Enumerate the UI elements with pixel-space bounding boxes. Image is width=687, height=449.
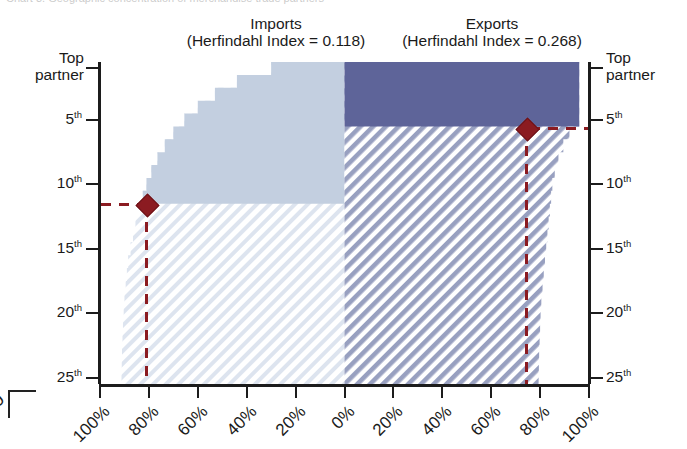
y-label-right-20: 20th xyxy=(606,303,678,320)
y-tick-right-25 xyxy=(590,377,603,379)
y-tick-left-10 xyxy=(86,183,99,185)
y-axis-left-line xyxy=(98,62,101,384)
y-tick-left-25 xyxy=(86,377,99,379)
y-tick-right-15 xyxy=(590,248,603,250)
x-tick-right-40% xyxy=(441,384,443,398)
y-label-right-10: 10th xyxy=(606,174,678,191)
y-tick-left-20 xyxy=(86,312,99,314)
y-label-right-1: Toppartner xyxy=(606,50,680,83)
imports-marker-leader-vertical xyxy=(145,204,148,384)
x-tick-left-80% xyxy=(148,384,150,398)
y-label-left-25: 25th xyxy=(10,368,82,385)
chart-canvas: Chart 3. Geographic concentration of mer… xyxy=(0,0,687,449)
exports-marker-leader-vertical xyxy=(525,128,528,384)
y-label-left-15: 15th xyxy=(10,239,82,256)
y-tick-left-1 xyxy=(86,67,99,69)
x-tick-left-40% xyxy=(246,384,248,398)
x-tick-right-20% xyxy=(392,384,394,398)
y-tick-right-1 xyxy=(590,67,603,69)
x-tick-left-20% xyxy=(295,384,297,398)
y-label-left-1: Toppartner xyxy=(10,50,84,83)
plot-area xyxy=(0,0,687,449)
y-axis-right-line xyxy=(588,62,591,384)
x-tick-left-100% xyxy=(99,384,101,398)
x-tick-right-80% xyxy=(539,384,541,398)
y-label-right-15: 15th xyxy=(606,239,678,256)
y-label-left-5: 5th xyxy=(10,110,82,127)
x-tick-right-60% xyxy=(490,384,492,398)
y-label-right-5: 5th xyxy=(606,110,678,127)
y-label-left-10: 10th xyxy=(10,174,82,191)
y-label-left-20: 20th xyxy=(10,303,82,320)
y-tick-right-10 xyxy=(590,183,603,185)
x-tick-right-100% xyxy=(588,384,590,398)
exports-solid-region xyxy=(345,62,580,126)
y-tick-right-5 xyxy=(590,119,603,121)
imports-solid-region xyxy=(143,62,345,204)
y-label-right-25: 25th xyxy=(606,368,678,385)
y-tick-right-20 xyxy=(590,312,603,314)
x-tick-left-0% xyxy=(344,384,346,398)
x-tick-left-60% xyxy=(197,384,199,398)
y-tick-left-5 xyxy=(86,119,99,121)
y-tick-left-15 xyxy=(86,248,99,250)
